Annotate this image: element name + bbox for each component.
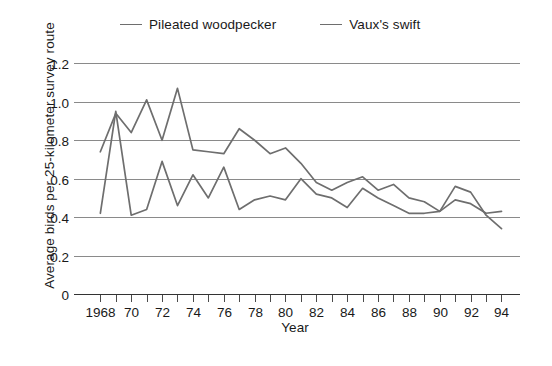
x-axis-title: Year — [0, 320, 552, 335]
x-tick-label: 1968 — [85, 305, 115, 320]
x-tick-label: 76 — [217, 305, 232, 320]
x-tick-label: 90 — [433, 305, 448, 320]
chart-figure: Pileated woodpecker Vaux's swift Average… — [0, 0, 552, 366]
y-tick-label: 1.0 — [50, 96, 69, 111]
gridlines — [74, 64, 520, 295]
x-tick-label: 84 — [340, 305, 356, 320]
chart-plot-area: 00.20.40.60.81.01.2 19687072747678808284… — [0, 0, 552, 366]
x-tick-label: 72 — [155, 305, 170, 320]
x-tick-label: 88 — [402, 305, 417, 320]
x-tick-label: 86 — [371, 305, 386, 320]
x-tick-label: 94 — [494, 305, 510, 320]
x-tick-label: 70 — [124, 305, 139, 320]
y-tick-label: 0.2 — [50, 250, 69, 265]
x-axis-title-text: Year — [281, 320, 308, 335]
y-tick-label: 0.6 — [50, 173, 69, 188]
x-tick-labels: 196870727476788082848688909294 — [85, 305, 509, 320]
y-tick-label: 0 — [61, 288, 69, 303]
data-series — [100, 88, 501, 228]
y-tick-labels: 00.20.40.60.81.01.2 — [50, 57, 69, 303]
x-tick-label: 82 — [309, 305, 324, 320]
x-tick-label: 92 — [464, 305, 479, 320]
y-tick-label: 0.4 — [50, 211, 69, 226]
x-tick-label: 78 — [248, 305, 263, 320]
y-tick-label: 1.2 — [50, 57, 69, 72]
y-tick-label: 0.8 — [50, 134, 69, 149]
x-tick-label: 74 — [186, 305, 202, 320]
axis-ticks — [101, 295, 502, 302]
x-tick-label: 80 — [278, 305, 293, 320]
series-line-vaux-s-swift — [100, 88, 501, 228]
